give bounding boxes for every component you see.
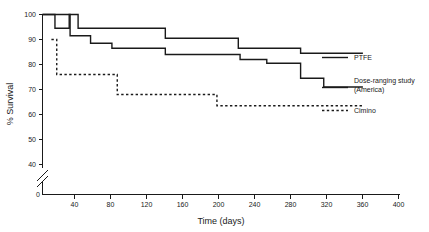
y-tick-label-60: 60 [28, 111, 36, 118]
x-tick-label-240: 240 [249, 201, 261, 208]
y-ticks [39, 15, 43, 165]
x-tick-label-320: 320 [321, 201, 333, 208]
x-tick-label-200: 200 [213, 201, 225, 208]
series-line-cimino [51, 40, 363, 106]
x-axis-title: Time (days) [197, 216, 244, 226]
y-tick-label-40: 40 [28, 161, 36, 168]
y-tick-label-80: 80 [28, 61, 36, 68]
legend-label-dose-ranging-line2: (America) [354, 86, 384, 94]
y-tick-label-100: 100 [24, 11, 36, 18]
y-tick-label-50: 50 [28, 136, 36, 143]
legend-label-cimino: Cimino [354, 107, 376, 114]
series-line-ptfe [43, 15, 363, 54]
y-axis-title: % Survival [5, 83, 15, 126]
chart-plot-area: 100 90 80 70 60 50 40 0 40 80 120 160 20… [0, 0, 429, 232]
series-line-dose-ranging [43, 15, 363, 88]
y-tick-label-70: 70 [28, 86, 36, 93]
chart-legend: PTFE Dose-ranging study (America) Cimino [322, 54, 415, 114]
x-tick-label-80: 80 [107, 201, 115, 208]
x-tick-label-120: 120 [141, 201, 153, 208]
x-tick-label-280: 280 [285, 201, 297, 208]
x-tick-label-160: 160 [177, 201, 189, 208]
legend-label-ptfe: PTFE [354, 54, 372, 61]
legend-label-dose-ranging: Dose-ranging study [354, 77, 415, 85]
survival-chart-figure: 100 90 80 70 60 50 40 0 40 80 120 160 20… [0, 0, 429, 232]
x-tick-label-40: 40 [71, 201, 79, 208]
x-ticks [75, 195, 399, 199]
x-tick-label-360: 360 [357, 201, 369, 208]
x-tick-label-0: 0 [36, 191, 40, 198]
x-tick-label-400: 400 [393, 201, 405, 208]
y-tick-label-90: 90 [28, 36, 36, 43]
